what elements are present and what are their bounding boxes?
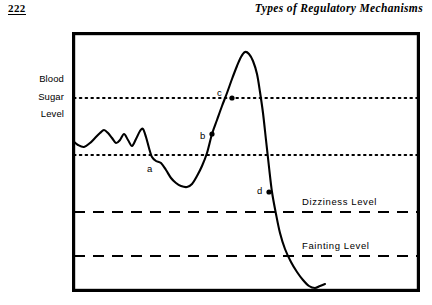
y-axis-label-line-2: Sugar (6, 88, 64, 106)
point-marker-d (266, 189, 271, 194)
y-axis-label-line-3: Level (6, 105, 64, 123)
y-axis-label: Blood Sugar Level (6, 70, 64, 123)
dizziness-level-label: Dizziness Level (302, 196, 377, 207)
point-label-b: b (200, 130, 205, 141)
y-axis-label-line-1: Blood (6, 70, 64, 88)
point-marker-b (209, 131, 214, 136)
blood-sugar-line-chart: Dizziness Level Fainting Level abcd (72, 32, 420, 292)
point-label-a: a (147, 163, 153, 174)
page-number: 222 (8, 2, 26, 15)
point-label-c: c (217, 87, 222, 98)
blood-sugar-curve (73, 52, 325, 288)
figure-page: 222 Types of Regulatory Mechanisms Blood… (0, 0, 432, 305)
point-label-d: d (257, 185, 262, 196)
annotation-labels: abcd (147, 87, 262, 196)
running-head: Types of Regulatory Mechanisms (255, 2, 423, 15)
chart-border (74, 34, 419, 291)
chart-plot-area: Dizziness Level Fainting Level abcd (72, 32, 420, 292)
fainting-level-label: Fainting Level (302, 240, 370, 251)
point-marker-c (229, 95, 234, 100)
